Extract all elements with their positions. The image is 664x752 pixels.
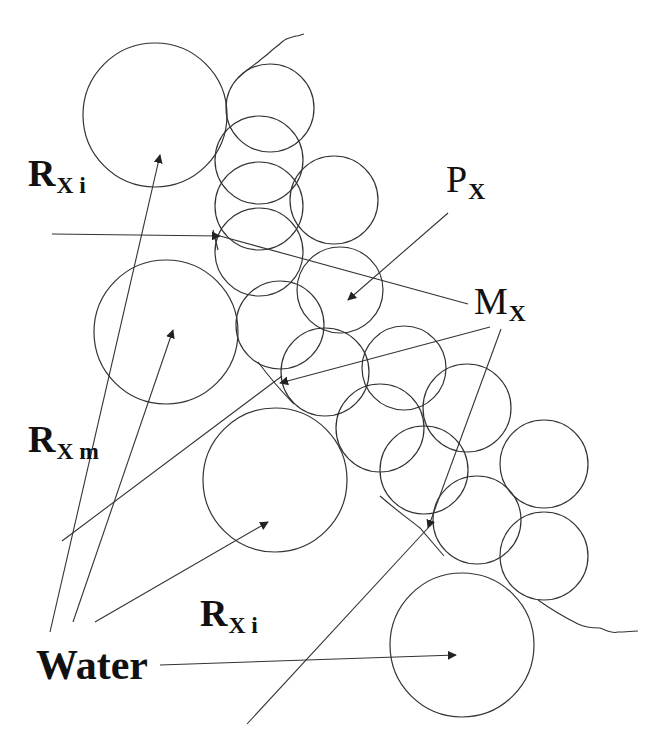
boundary-squiggle-bottom xyxy=(538,600,638,633)
large-pore-circle xyxy=(203,408,347,552)
label-px-main: P xyxy=(446,158,467,200)
label-rxi-top-subscript: X i xyxy=(56,172,85,198)
diagram-drawing xyxy=(0,0,664,752)
particle-circle xyxy=(362,326,446,410)
label-mx-subscript: X xyxy=(509,300,526,326)
label-mx-main: M xyxy=(474,280,508,322)
label-rxi-bottom-main: R xyxy=(200,592,227,634)
label-rxi-top: RX i xyxy=(28,154,86,192)
label-px-subscript: X xyxy=(468,178,485,204)
large-pore-circle xyxy=(390,573,534,717)
interface-curve-3 xyxy=(380,496,444,556)
label-px: PX xyxy=(446,160,485,198)
label-rxm: RX m xyxy=(28,420,99,458)
particle-circle xyxy=(433,476,521,564)
line-mx-to-top xyxy=(220,236,468,304)
pointer-lines xyxy=(50,155,501,724)
label-rxi-top-main: R xyxy=(28,152,55,194)
boundary-lines xyxy=(213,34,638,633)
particle-circle xyxy=(500,512,588,600)
diagram-canvas: RX i PX MX RX m RX i Water xyxy=(0,0,664,752)
line-bottom-diagonal xyxy=(247,528,428,724)
particle-circle xyxy=(297,247,383,333)
large-pore-circle xyxy=(94,260,238,404)
particle-circle xyxy=(290,156,378,244)
arrow-water-to-bottom-right-pore xyxy=(160,655,456,665)
particle-circle xyxy=(423,364,511,452)
line-mx-horizontal xyxy=(52,234,220,236)
particle-circle xyxy=(281,328,369,416)
label-rxi-bottom: RX i xyxy=(200,594,258,632)
label-rxi-bottom-subscript: X i xyxy=(228,612,257,638)
particle-circles xyxy=(83,43,588,717)
particle-circle xyxy=(215,116,303,204)
arrow-water-to-top-left-pore xyxy=(50,155,160,632)
particle-circle xyxy=(215,162,303,250)
label-water: Water xyxy=(36,644,148,686)
label-mx: MX xyxy=(474,282,526,320)
arrow-px-to-particle xyxy=(348,213,448,300)
large-pore-circle xyxy=(83,43,227,187)
label-rxm-main: R xyxy=(28,418,55,460)
arrow-water-to-left-middle-pore xyxy=(73,330,173,622)
particle-circle xyxy=(215,208,303,296)
particle-circle xyxy=(236,281,324,369)
label-rxm-subscript: X m xyxy=(56,438,99,464)
